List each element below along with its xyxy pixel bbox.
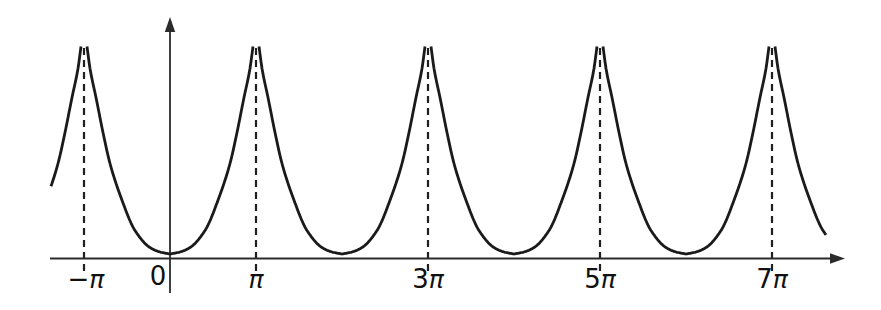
tick-prefix: 0 [150,261,167,291]
tick-pi-symbol: π [89,265,105,294]
axes [50,17,845,293]
curve-path [51,47,826,255]
tick-pi-symbol: π [248,265,264,294]
tick-label-zero: 0 [150,261,167,291]
tick-label-3pi: 3π [412,264,445,294]
tick-label-7pi: 7π [756,264,789,294]
tick-pi-symbol: π [601,265,617,294]
x-tick-labels: −π 0 π 3π 5π 7π [68,261,789,294]
tick-label-5pi: 5π [584,264,617,294]
tick-label-neg-pi: −π [68,264,106,294]
tick-pi-symbol: π [429,265,445,294]
tick-prefix: 3 [412,264,429,294]
tick-prefix: 5 [584,264,601,294]
function-plot-figure: −π 0 π 3π 5π 7π [0,0,881,310]
tick-label-pi: π [248,265,264,294]
plot-svg: −π 0 π 3π 5π 7π [0,0,881,310]
tick-prefix: − [68,264,90,294]
y-axis-arrow-icon [165,17,175,32]
tick-prefix: 7 [756,264,773,294]
tick-pi-symbol: π [773,265,789,294]
asymptote-dashed-lines [84,48,772,273]
x-axis-arrow-icon [830,253,845,263]
